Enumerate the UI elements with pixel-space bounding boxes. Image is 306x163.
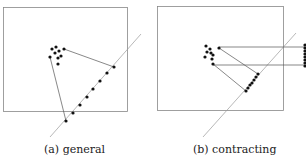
panel-b-line-point <box>254 75 257 78</box>
panel-b-cluster-point <box>205 50 208 53</box>
panel-b-edge <box>219 48 258 74</box>
panel-a-cluster-point <box>56 62 59 65</box>
figure-canvas <box>0 0 306 163</box>
panel-b-edge-point <box>303 49 306 52</box>
panel-b-frame <box>158 7 284 111</box>
panel-b-cluster-point <box>204 44 207 47</box>
panel-a-cluster-point <box>56 56 59 59</box>
panel-b-edge-point <box>303 58 306 61</box>
panel-a-line-point <box>98 79 101 82</box>
panel-b-edge <box>213 64 246 91</box>
panel-b-line-point <box>256 72 259 75</box>
panel-b-edge-point <box>303 52 306 55</box>
panel-a-edge <box>64 49 114 67</box>
panel-a-cluster-point <box>62 47 65 50</box>
panel-b-edge-point <box>303 55 306 58</box>
panel-a-cluster-point <box>53 51 56 54</box>
panel-a-cluster-point <box>48 55 51 58</box>
panel-b-cluster-point <box>203 55 206 58</box>
panel-a-cluster-point <box>59 54 62 57</box>
panel-a-line-point <box>85 95 88 98</box>
caption-general: (a) general <box>44 143 105 156</box>
caption-contracting: (b) contracting <box>193 143 276 156</box>
panel-b-edge-point <box>303 43 306 46</box>
panel-a-frame <box>4 8 128 112</box>
panel-a-line-point <box>78 103 81 106</box>
panel-a-line-point <box>71 111 74 114</box>
panel-b-cluster-point <box>208 47 211 50</box>
panel-a-line-point <box>64 119 67 122</box>
panel-b-line-point <box>246 86 249 89</box>
panel-a-cluster-point <box>54 45 57 48</box>
panel-b-cluster-point <box>217 46 220 49</box>
panel-a-line-point <box>91 87 94 90</box>
panel-b-edge-point <box>303 61 306 64</box>
panel-b-line-point <box>244 89 247 92</box>
panel-b-line-point <box>248 83 251 86</box>
panel-a-line-point <box>105 71 108 74</box>
panel-b-line-point <box>252 78 255 81</box>
panel-b-cluster-point <box>211 53 214 56</box>
panel-b-cluster-point <box>210 57 213 60</box>
panel-a-cluster-point <box>50 47 53 50</box>
panel-a-cluster-point <box>57 49 60 52</box>
panel-b-cluster-point <box>211 62 214 65</box>
panel-a-line-point <box>112 65 115 68</box>
